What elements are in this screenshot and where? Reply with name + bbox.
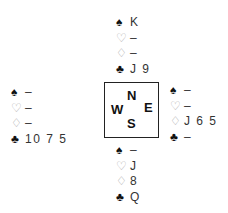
south-diamonds-cards: 8 [130,174,138,190]
spade-icon: ♠ [116,15,130,31]
south-clubs-cards: Q [130,190,141,206]
west-clubs-cards: 10 7 5 [25,132,67,148]
diamond-icon: ♢ [170,114,184,130]
west-clubs-row: ♣ 10 7 5 [11,132,67,148]
west-diamonds-cards: – [25,116,33,132]
south-hearts-cards: J [130,159,138,175]
club-icon: ♣ [170,130,184,146]
west-hearts-row: ♡ – [11,101,67,117]
heart-icon: ♡ [170,99,184,115]
south-hearts-row: ♡ J [116,159,141,175]
east-diamonds-cards: J 6 5 [184,114,218,130]
north-hearts-cards: – [130,31,138,47]
club-icon: ♣ [11,132,25,148]
diamond-icon: ♢ [116,46,130,62]
heart-icon: ♡ [11,101,25,117]
east-hearts-cards: – [184,99,192,115]
north-clubs-row: ♣ J 9 [116,62,151,78]
compass-south: S [127,116,136,131]
spade-icon: ♠ [11,85,25,101]
heart-icon: ♡ [116,159,130,175]
south-spades-cards: – [130,143,138,159]
club-icon: ♣ [116,62,130,78]
compass-box: N W E S [104,82,159,138]
west-hand: ♠ – ♡ – ♢ – ♣ 10 7 5 [11,85,67,147]
south-clubs-row: ♣ Q [116,190,141,206]
heart-icon: ♡ [116,31,130,47]
compass-east: E [144,100,153,115]
west-diamonds-row: ♢ – [11,116,67,132]
north-hearts-row: ♡ – [116,31,151,47]
north-spades-row: ♠ K [116,15,151,31]
north-clubs-cards: J 9 [130,62,151,78]
compass-west: W [111,102,123,117]
west-spades-row: ♠ – [11,85,67,101]
east-hearts-row: ♡ – [170,99,218,115]
south-diamonds-row: ♢ 8 [116,174,141,190]
north-spades-cards: K [130,15,140,31]
club-icon: ♣ [116,190,130,206]
compass-north: N [127,88,136,103]
east-diamonds-row: ♢ J 6 5 [170,114,218,130]
diamond-icon: ♢ [11,116,25,132]
north-diamonds-cards: – [130,46,138,62]
north-diamonds-row: ♢ – [116,46,151,62]
west-spades-cards: – [25,85,33,101]
west-hearts-cards: – [25,101,33,117]
east-clubs-row: ♣ – [170,130,218,146]
east-spades-cards: – [184,83,192,99]
spade-icon: ♠ [116,143,130,159]
north-hand: ♠ K ♡ – ♢ – ♣ J 9 [116,15,151,77]
east-hand: ♠ – ♡ – ♢ J 6 5 ♣ – [170,83,218,145]
spade-icon: ♠ [170,83,184,99]
south-hand: ♠ – ♡ J ♢ 8 ♣ Q [116,143,141,205]
east-clubs-cards: – [184,130,192,146]
south-spades-row: ♠ – [116,143,141,159]
east-spades-row: ♠ – [170,83,218,99]
diamond-icon: ♢ [116,174,130,190]
